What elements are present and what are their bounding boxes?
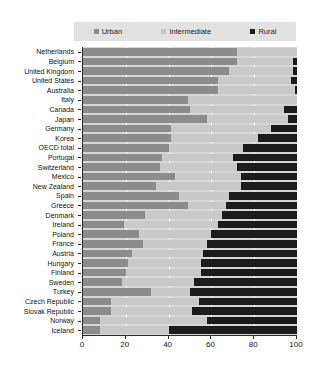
bar-segment-rural: [218, 221, 297, 229]
bar-segment-urban: [83, 163, 160, 171]
category-label: Czech Republic: [25, 298, 74, 305]
category-tick: [78, 186, 81, 187]
category-label: Germany: [45, 125, 74, 132]
bar-row: [83, 250, 297, 258]
bar-segment-rural: [201, 269, 297, 277]
bar-segment-urban: [83, 298, 111, 306]
bar-segment-rural: [169, 326, 297, 334]
category-tick: [78, 225, 81, 226]
bar-segment-urban: [83, 67, 229, 75]
bar-row: [83, 278, 297, 286]
bar-segment-rural: [207, 240, 297, 248]
bar-row: [83, 211, 297, 219]
category-tick: [78, 167, 81, 168]
bar-segment-rural: [211, 230, 297, 238]
category-tick: [78, 71, 81, 72]
bar-row: [83, 86, 297, 94]
bar-segment-urban: [83, 96, 188, 104]
bar-row: [83, 48, 297, 56]
category-tick: [78, 129, 81, 130]
bar-segment-intermediate: [218, 86, 295, 94]
bar-row: [83, 125, 297, 133]
x-tick-100: [296, 335, 297, 339]
bar-row: [83, 221, 297, 229]
bar-segment-urban: [83, 86, 218, 94]
bar-row: [83, 307, 297, 315]
bar-segment-rural: [293, 67, 297, 75]
bar-segment-rural: [241, 182, 297, 190]
category-tick: [78, 157, 81, 158]
bar-segment-intermediate: [171, 134, 259, 142]
bar-segment-urban: [83, 307, 111, 315]
category-label: Spain: [56, 192, 74, 199]
bar-segment-intermediate: [151, 288, 190, 296]
x-tick-0: [82, 335, 83, 339]
gridline-100: [297, 47, 298, 335]
bar-segment-intermediate: [126, 269, 201, 277]
bar-segment-urban: [83, 317, 100, 325]
category-label: Norway: [50, 317, 74, 324]
category-tick: [78, 148, 81, 149]
bar-row: [83, 202, 297, 210]
bar-row: [83, 230, 297, 238]
x-tick-80: [253, 335, 254, 339]
bar-segment-urban: [83, 134, 171, 142]
bar-segment-intermediate: [111, 307, 192, 315]
bar-segment-urban: [83, 269, 126, 277]
bar-segment-urban: [83, 173, 175, 181]
category-label: Portugal: [48, 154, 74, 161]
category-label: Belgium: [49, 58, 74, 65]
bar-segment-rural: [194, 278, 297, 286]
bar-segment-urban: [83, 192, 179, 200]
bar-segment-rural: [237, 163, 297, 171]
category-tick: [78, 321, 81, 322]
category-label: Greece: [51, 202, 74, 209]
bar-segment-urban: [83, 288, 151, 296]
bar-row: [83, 134, 297, 142]
legend-swatch-urban-icon: [94, 29, 99, 34]
category-label: Finland: [51, 269, 74, 276]
category-tick: [78, 177, 81, 178]
bar-segment-urban: [83, 259, 128, 267]
legend-item-urban: Urban: [94, 28, 122, 36]
category-label: Australia: [47, 87, 74, 94]
x-tick-label-20: 20: [120, 341, 129, 349]
x-axis-line: [82, 335, 296, 336]
bar-segment-urban: [83, 115, 207, 123]
category-label: United States: [32, 77, 74, 84]
bar-rows: [83, 47, 297, 335]
category-label: Poland: [52, 231, 74, 238]
bar-segment-urban: [83, 144, 169, 152]
x-tick-label-100: 100: [289, 341, 302, 349]
bar-segment-urban: [83, 77, 218, 85]
bar-segment-rural: [201, 259, 297, 267]
bar-segment-intermediate: [188, 96, 297, 104]
category-label: Mexico: [52, 173, 74, 180]
bar-segment-rural: [199, 298, 297, 306]
bar-segment-intermediate: [128, 259, 201, 267]
category-label: Slovak Republic: [24, 308, 74, 315]
category-label: Korea: [55, 135, 74, 142]
bar-row: [83, 317, 297, 325]
bar-segment-intermediate: [124, 221, 218, 229]
bar-segment-urban: [83, 182, 156, 190]
bar-segment-intermediate: [111, 298, 199, 306]
bar-segment-rural: [241, 173, 297, 181]
bar-segment-urban: [83, 106, 190, 114]
bar-segment-rural: [226, 202, 297, 210]
category-label: Canada: [49, 106, 74, 113]
bar-row: [83, 77, 297, 85]
bar-segment-intermediate: [179, 192, 228, 200]
bar-segment-urban: [83, 211, 145, 219]
bar-segment-intermediate: [145, 211, 222, 219]
bar-segment-rural: [229, 192, 297, 200]
category-label: Turkey: [53, 288, 74, 295]
bar-segment-urban: [83, 125, 171, 133]
x-tick-label-0: 0: [80, 341, 84, 349]
bar-segment-intermediate: [171, 125, 272, 133]
bar-row: [83, 326, 297, 334]
category-axis-labels: NetherlandsBelgiumUnited KingdomUnited S…: [0, 47, 78, 335]
x-tick-label-40: 40: [163, 341, 172, 349]
category-tick: [78, 311, 81, 312]
category-label: New Zealand: [33, 183, 74, 190]
